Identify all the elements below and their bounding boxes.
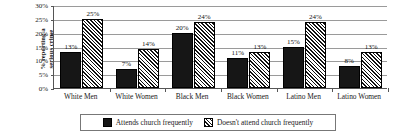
legend-item-doesnt-attend: Doesn't attend church frequently	[204, 118, 313, 127]
legend-label-attends: Attends church frequently	[116, 119, 193, 127]
bar-value-label: 14%	[134, 41, 163, 48]
x-axis-label: White Men	[64, 92, 97, 101]
x-axis-label: Black Women	[227, 92, 269, 101]
bar[interactable]	[283, 47, 304, 89]
y-axis-tick-label: 25%	[35, 16, 48, 23]
bar-value-label: 13%	[357, 44, 386, 51]
bar-group: 20%24%	[165, 6, 221, 88]
bar-value-label: 13%	[56, 44, 85, 51]
x-axis-label: Latino Men	[286, 92, 321, 101]
legend-swatch-solid-icon	[103, 118, 112, 127]
legend-swatch-hatch-icon	[204, 118, 213, 127]
bar[interactable]	[194, 22, 215, 88]
bar[interactable]	[116, 69, 137, 88]
y-axis-tick-label: 10%	[35, 58, 48, 65]
bar-value-label: 24%	[190, 14, 219, 21]
bar-value-label: 15%	[279, 39, 308, 46]
y-axis-tick-mark	[51, 89, 54, 90]
bar[interactable]	[82, 19, 103, 88]
y-axis-tick-label: 20%	[35, 30, 48, 37]
bar[interactable]	[249, 52, 270, 88]
x-axis-label: White Women	[115, 92, 158, 101]
bar-value-label: 25%	[78, 11, 107, 18]
bar[interactable]	[339, 66, 360, 88]
bar-value-label: 8%	[335, 58, 364, 65]
bar-value-label: 24%	[301, 14, 330, 21]
bar[interactable]	[305, 22, 326, 88]
y-axis-tick-label: 15%	[35, 44, 48, 51]
bar-group: 11%13%	[221, 6, 277, 88]
bar-group: 8%13%	[332, 6, 388, 88]
bar[interactable]	[361, 52, 382, 88]
bar-group: 7%14%	[110, 6, 166, 88]
legend-label-doesnt-attend: Doesn't attend church frequently	[217, 119, 313, 127]
legend-item-attends: Attends church frequently	[103, 118, 193, 127]
bar-value-label: 13%	[245, 44, 274, 51]
plot-area: 13%25%7%14%20%24%11%13%15%24%8%13%	[53, 6, 387, 89]
y-axis-tick-label: 5%	[39, 72, 48, 79]
bar-group: 15%24%	[277, 6, 333, 88]
chart-legend: Attends church frequently Doesn't attend…	[80, 114, 336, 131]
bar[interactable]	[227, 58, 248, 88]
x-axis-tick-mark	[388, 88, 389, 92]
bar[interactable]	[138, 49, 159, 88]
bar[interactable]	[60, 52, 81, 88]
bar-value-label: 7%	[112, 61, 141, 68]
x-axis-label: Latino Women	[337, 92, 381, 101]
x-axis-label: Black Men	[176, 92, 209, 101]
y-axis-tick-label: 30%	[35, 3, 48, 10]
bar-value-label: 20%	[168, 25, 197, 32]
bar-chart: % reporting a serious crime 0%5%10%15%20…	[0, 0, 394, 138]
bar-group: 13%25%	[54, 6, 110, 88]
bar[interactable]	[172, 33, 193, 88]
x-axis-category-labels: White MenWhite WomenBlack MenBlack Women…	[53, 92, 387, 106]
y-axis-tick-label: 0%	[39, 86, 48, 93]
y-axis-tick-labels: 0%5%10%15%20%25%30%	[24, 0, 50, 138]
